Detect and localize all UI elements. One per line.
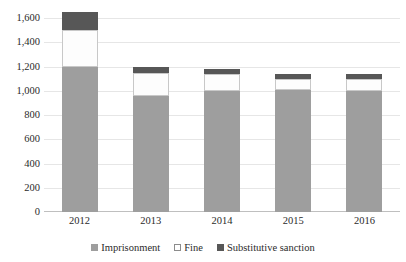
legend-swatch-icon [91, 244, 98, 251]
legend-label: Imprisonment [101, 242, 160, 253]
y-tick-label: 1,400 [0, 37, 40, 47]
bar-segment-substitutive-sanction[interactable] [346, 74, 382, 79]
x-tick-label: 2014 [192, 214, 252, 228]
bar-segment-fine[interactable] [346, 79, 382, 91]
x-axis: 20122013201420152016 [44, 214, 400, 232]
bar-group[interactable] [133, 12, 169, 212]
stacked-bar-chart: 02004006008001,0001,2001,4001,600 201220… [0, 0, 406, 262]
bar-segment-substitutive-sanction[interactable] [133, 67, 169, 73]
bar-segment-substitutive-sanction[interactable] [204, 69, 240, 74]
bar-segment-fine[interactable] [275, 79, 311, 90]
bar-segment-substitutive-sanction[interactable] [275, 74, 311, 79]
y-axis: 02004006008001,0001,2001,4001,600 [0, 12, 40, 212]
y-tick-label: 200 [0, 183, 40, 193]
y-tick-label: 1,600 [0, 13, 40, 23]
y-tick-label: 400 [0, 159, 40, 169]
bar-segment-imprisonment[interactable] [346, 91, 382, 212]
x-tick-label: 2016 [334, 214, 394, 228]
bar-group[interactable] [346, 12, 382, 212]
x-tick-label: 2013 [121, 214, 181, 228]
bar-segment-fine[interactable] [204, 74, 240, 91]
bar-segment-imprisonment[interactable] [204, 91, 240, 212]
x-tick-label: 2012 [50, 214, 110, 228]
y-tick-label: 800 [0, 110, 40, 120]
bar-segment-imprisonment[interactable] [133, 96, 169, 212]
bar-segment-fine[interactable] [133, 73, 169, 96]
y-tick-label: 600 [0, 134, 40, 144]
legend-label: Fine [184, 242, 203, 253]
y-tick-label: 0 [0, 207, 40, 217]
legend-swatch-icon [217, 244, 224, 251]
legend-label: Substitutive sanction [227, 242, 315, 253]
bar-segment-substitutive-sanction[interactable] [62, 12, 98, 30]
bar-group[interactable] [62, 12, 98, 212]
legend-item[interactable]: Imprisonment [91, 242, 160, 253]
chart-legend: ImprisonmentFineSubstitutive sanction [0, 239, 406, 255]
y-tick-label: 1,200 [0, 62, 40, 72]
legend-swatch-icon [174, 244, 181, 251]
bar-group[interactable] [204, 12, 240, 212]
legend-item[interactable]: Fine [174, 242, 203, 253]
legend-item[interactable]: Substitutive sanction [217, 242, 315, 253]
y-tick-label: 1,000 [0, 86, 40, 96]
bar-segment-fine[interactable] [62, 30, 98, 67]
bar-group[interactable] [275, 12, 311, 212]
x-tick-label: 2015 [263, 214, 323, 228]
bar-segment-imprisonment[interactable] [62, 67, 98, 212]
bar-segment-imprisonment[interactable] [275, 90, 311, 212]
plot-area [44, 12, 400, 212]
